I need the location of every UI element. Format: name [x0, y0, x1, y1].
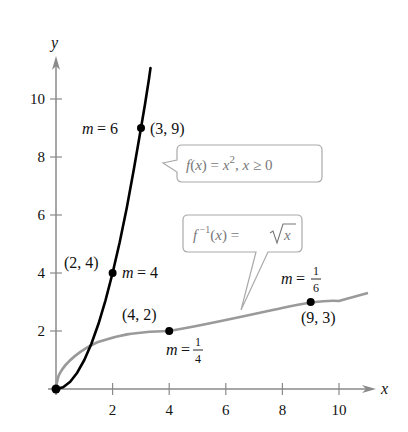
point-origin: [52, 385, 61, 394]
point-9-3: [307, 298, 315, 306]
point-label-3-9: (3, 9): [150, 120, 185, 138]
callout-f: f(x) = x2, x ≥ 0: [163, 145, 322, 182]
svg-text:6: 6: [313, 281, 319, 295]
point-3-9: [137, 124, 145, 132]
y-axis-label: y: [49, 34, 59, 52]
point-2-4: [109, 269, 117, 277]
x-tick-label: 6: [222, 402, 230, 418]
x-tick-label: 10: [332, 402, 347, 418]
point-label-9-3: (9, 3): [301, 309, 336, 327]
x-tick-label: 8: [279, 402, 287, 418]
svg-text:m: m: [82, 120, 94, 137]
y-tick-labels: 2 4 6 8 10: [30, 91, 46, 339]
point-label-4-2: (4, 2): [122, 306, 157, 324]
svg-text:1: 1: [195, 335, 201, 349]
slope-label-m-quarter: m = 1 4: [166, 335, 203, 366]
x-tick-label: 2: [109, 402, 117, 418]
slope-label-m-sixth: m = 1 6: [281, 264, 321, 295]
svg-text:m: m: [166, 341, 178, 358]
slope-label-m6: m = 6: [82, 120, 118, 137]
svg-text:4: 4: [195, 352, 201, 366]
y-tick-label: 6: [38, 207, 46, 223]
svg-text:f(x) = x2, x ≥ 0: f(x) = x2, x ≥ 0: [186, 153, 272, 174]
svg-text:= 6: = 6: [97, 120, 118, 137]
svg-text:= 4: = 4: [137, 264, 158, 281]
point-label-2-4: (2, 4): [64, 254, 99, 272]
svg-text:=: =: [181, 341, 190, 358]
point-4-2: [165, 327, 173, 335]
svg-text:x: x: [283, 227, 291, 243]
x-axis-label: x: [380, 380, 388, 397]
svg-text:1: 1: [313, 264, 319, 278]
y-tick-label: 8: [38, 149, 46, 165]
y-tick-label: 10: [30, 91, 45, 107]
svg-text:m: m: [281, 270, 293, 287]
function-inverse-chart: y x 2 4 6 8 10 2 4 6 8 10: [0, 0, 408, 432]
callout-finv: f −1(x) = x: [183, 215, 302, 310]
slope-label-m4: m = 4: [122, 264, 158, 281]
y-tick-label: 4: [38, 265, 46, 281]
svg-text:m: m: [122, 264, 134, 281]
x-tick-labels: 2 4 6 8 10: [109, 402, 347, 418]
y-tick-label: 2: [38, 323, 46, 339]
x-tick-label: 4: [165, 402, 173, 418]
svg-text:=: =: [296, 270, 305, 287]
